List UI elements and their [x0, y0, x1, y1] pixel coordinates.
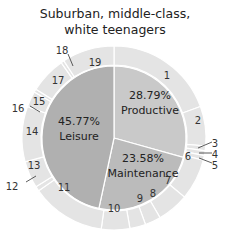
- outer-label-18: 18: [56, 45, 69, 56]
- outer-label-4: 4: [212, 149, 218, 160]
- outer-label-6: 6: [185, 151, 191, 162]
- outer-label-15: 15: [33, 96, 46, 107]
- outer-label-14: 14: [26, 126, 39, 137]
- outer-label-5: 5: [212, 160, 218, 171]
- outer-label-19: 19: [89, 57, 102, 68]
- outer-label-3: 3: [212, 138, 218, 149]
- inner-pct-maintenance: 23.58%: [122, 152, 164, 165]
- outer-label-2: 2: [195, 115, 201, 126]
- inner-label-leisure: Leisure: [59, 130, 99, 143]
- outer-label-7: 7: [165, 175, 171, 186]
- outer-label-8: 8: [150, 188, 156, 199]
- inner-pct-leisure: 45.77%: [58, 115, 100, 128]
- outer-label-11: 11: [58, 182, 71, 193]
- outer-label-13: 13: [28, 160, 41, 171]
- outer-label-12: 12: [6, 181, 19, 192]
- outer-label-10: 10: [108, 203, 121, 214]
- outer-label-16: 16: [12, 103, 25, 114]
- sunburst-chart: 28.79%Productive23.58%Maintenance45.77%L…: [0, 0, 230, 234]
- inner-label-productive: Productive: [121, 104, 179, 117]
- inner-pct-productive: 28.79%: [129, 89, 171, 102]
- outer-label-9: 9: [137, 193, 143, 204]
- outer-label-17: 17: [52, 75, 65, 86]
- outer-label-1: 1: [164, 70, 170, 81]
